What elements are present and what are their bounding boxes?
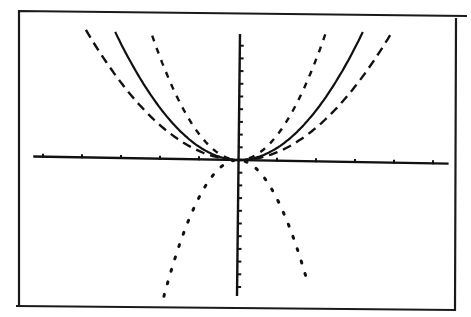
axes [33,34,448,296]
graph-plot [0,0,471,317]
y-axis [237,34,240,296]
calculator-graph-screen [0,0,471,317]
